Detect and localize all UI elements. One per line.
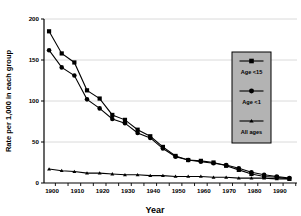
data-point-circle-marker [249,170,254,175]
data-point-circle-marker [47,48,52,53]
x-tick-label: 1940 [146,187,160,194]
data-point-square-marker [47,29,51,33]
data-point-circle-marker [161,146,166,151]
data-point-square-marker [60,51,64,55]
data-point-square-marker [98,96,102,100]
data-point-circle-marker [85,97,90,102]
y-tick-label: 200 [29,15,40,22]
line-chart: 050100150200 190019101920193019401950196… [0,0,301,216]
x-tick-label: 1960 [197,187,211,194]
chart-legend: Age <15Age <1All ages [232,52,271,143]
legend-label: Age <1 [242,99,261,105]
data-point-circle-marker [173,154,178,159]
data-point-circle-marker [123,121,128,126]
x-tick-label: 1980 [248,187,262,194]
y-axis-title: Rate per 1,000 in each group [4,50,13,153]
x-tick-label: 1930 [121,187,135,194]
data-point-circle-marker [199,159,204,164]
x-tick-label: 1970 [222,187,236,194]
data-point-circle-marker [186,158,191,163]
data-point-circle-marker [211,161,216,166]
y-tick-label: 100 [29,97,40,104]
data-point-circle-marker [224,163,229,168]
x-axis-title: Year [145,205,165,215]
legend-label: Age <15 [241,69,263,75]
data-point-circle-marker [72,73,77,78]
legend-label: All ages [241,129,262,135]
x-tick-label: 1990 [273,187,287,194]
data-point-square-marker [249,59,254,64]
data-point-square-marker [110,113,114,117]
x-tick-label: 1910 [70,187,84,194]
data-point-circle-marker [97,106,102,111]
data-point-circle-marker [237,166,242,171]
chart-container: 050100150200 190019101920193019401950196… [0,0,301,216]
y-tick-label: 0 [36,179,40,186]
data-point-circle-marker [110,117,115,122]
x-tick-label: 1920 [96,187,110,194]
x-tick-label: 1900 [45,187,59,194]
y-tick-label: 50 [32,138,39,145]
data-point-circle-marker [249,89,254,94]
data-point-circle-marker [135,131,140,136]
data-point-square-marker [85,88,89,92]
y-tick-label: 150 [29,56,40,63]
data-point-square-marker [72,60,76,64]
x-tick-label: 1950 [172,187,186,194]
data-point-circle-marker [59,65,64,70]
data-point-circle-marker [148,136,153,141]
